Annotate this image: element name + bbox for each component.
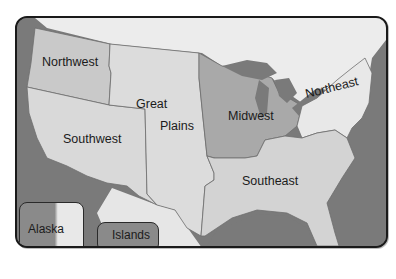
label-midwest: Midwest (228, 110, 274, 123)
label-great: Great (136, 98, 167, 111)
label-islands: Islands (112, 229, 150, 241)
inset-islands[interactable]: Islands (97, 222, 159, 248)
label-southwest: Southwest (63, 133, 121, 146)
inset-alaska[interactable]: Alaska (19, 202, 84, 248)
label-northwest: Northwest (42, 56, 98, 69)
label-alaska: Alaska (28, 223, 64, 235)
map-frame: Northwest Great Plains Southwest Midwest… (15, 16, 388, 248)
label-plains: Plains (160, 120, 194, 133)
label-southeast: Southeast (242, 175, 298, 188)
